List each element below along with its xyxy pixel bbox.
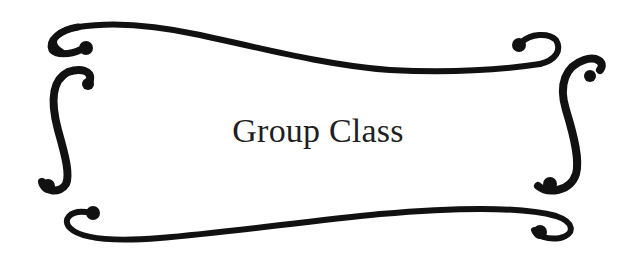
title-text: Group Class (232, 112, 403, 150)
title-text-container: Group Class (0, 0, 636, 260)
